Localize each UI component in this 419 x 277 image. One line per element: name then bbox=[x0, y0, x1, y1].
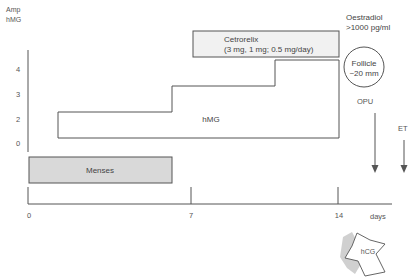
menses-block: Menses bbox=[29, 157, 172, 183]
cetrorelix-title: Cetrorelix bbox=[224, 35, 258, 44]
follicle-label: Follicle bbox=[352, 59, 377, 68]
et-label: ET bbox=[398, 124, 408, 133]
y-tick-2: 2 bbox=[16, 115, 20, 124]
oestradiol-note: Oestradiol >1000 pg/ml bbox=[346, 13, 390, 32]
opu-arrow-head-icon bbox=[372, 165, 379, 173]
hcg-event: hCG bbox=[340, 232, 385, 276]
hmg-block: hMG bbox=[58, 60, 339, 138]
x-tick-14: 14 bbox=[335, 211, 343, 220]
x-axis: 0 7 14 days bbox=[27, 187, 392, 221]
oestradiol-label: Oestradiol bbox=[346, 13, 383, 22]
opu-event: OPU bbox=[357, 97, 379, 173]
oestradiol-value: >1000 pg/ml bbox=[346, 23, 390, 32]
x-tick-0: 0 bbox=[27, 211, 31, 220]
cetrorelix-block: Cetrorelix (3 mg, 1 mg; 0.5 mg/day) bbox=[193, 31, 339, 57]
follicle-size: ~20 mm bbox=[349, 69, 378, 78]
y-tick-4: 4 bbox=[16, 65, 20, 74]
y-tick-0: 0 bbox=[16, 139, 20, 148]
opu-label: OPU bbox=[357, 97, 373, 106]
y-axis-title-amp: Amp bbox=[6, 6, 21, 14]
y-axis-title-hmg: hMG bbox=[6, 16, 21, 23]
y-axis: Amp hMG 4 3 2 0 bbox=[6, 6, 28, 152]
hmg-step-shape bbox=[58, 60, 339, 138]
et-event: ET bbox=[398, 124, 408, 173]
hcg-label: hCG bbox=[361, 248, 375, 255]
x-axis-unit: days bbox=[370, 212, 386, 221]
y-tick-3: 3 bbox=[16, 90, 20, 99]
hmg-label: hMG bbox=[202, 115, 219, 124]
follicle-note: Follicle ~20 mm bbox=[344, 47, 384, 87]
x-tick-7: 7 bbox=[189, 211, 193, 220]
protocol-diagram: Amp hMG 4 3 2 0 hMG Cetrorelix (3 mg, 1 … bbox=[0, 0, 419, 277]
menses-label: Menses bbox=[86, 166, 114, 175]
cetrorelix-dose: (3 mg, 1 mg; 0.5 mg/day) bbox=[224, 45, 314, 54]
et-arrow-head-icon bbox=[401, 165, 408, 173]
